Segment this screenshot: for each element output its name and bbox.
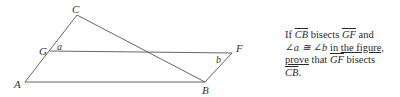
geometry-figure: C G A B F a b — [0, 0, 250, 97]
angle-b-label: b — [216, 54, 221, 65]
segment-ac — [25, 15, 77, 82]
label-g: G — [39, 45, 47, 57]
text: that — [309, 54, 330, 65]
text: . — [298, 67, 301, 78]
label-b: B — [202, 84, 209, 96]
segment-cb-notation: CB — [295, 29, 308, 40]
problem-statement: If CB bisects GF and ∠a ≅ ∠b in the figu… — [285, 29, 400, 79]
segment-gf — [50, 51, 232, 53]
label-f: F — [235, 42, 243, 54]
label-a: A — [13, 78, 21, 90]
segment-gf-notation: GF — [342, 29, 356, 40]
text: bisects — [308, 29, 342, 40]
segment-gf-notation: GF — [330, 54, 344, 65]
text: bisects — [344, 54, 375, 65]
text: the figure, — [341, 42, 384, 53]
label-c: C — [72, 3, 80, 15]
text: prove — [285, 54, 309, 65]
angle-congruence: ∠a ≅ ∠b — [285, 42, 327, 53]
angle-a-label: a — [57, 41, 62, 52]
segment-cb-notation: CB — [285, 67, 298, 78]
text: in — [327, 42, 340, 53]
text: and — [356, 29, 374, 40]
text: If — [285, 29, 295, 40]
segment-cb — [77, 15, 205, 82]
triangle-diagram: C G A B F a b — [0, 0, 250, 97]
